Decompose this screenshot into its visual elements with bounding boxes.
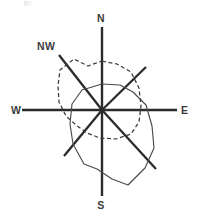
data-series-group bbox=[58, 59, 154, 185]
axis-label-south: S bbox=[97, 199, 104, 211]
axis-label-northwest: NW bbox=[37, 40, 55, 52]
wind-rose-figure: N S E W NW bbox=[0, 0, 199, 221]
axis-label-north: N bbox=[97, 12, 105, 24]
axis-spoke-se bbox=[102, 110, 156, 169]
axis-label-east: E bbox=[181, 104, 188, 116]
axis-spoke-sw bbox=[64, 110, 102, 156]
polar-rose-chart: N S E W NW bbox=[0, 0, 199, 221]
axis-label-west: W bbox=[11, 104, 21, 116]
